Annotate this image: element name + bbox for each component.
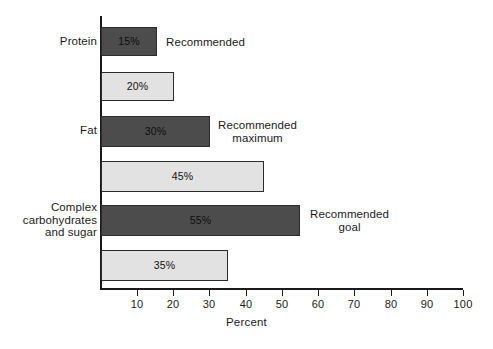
x-tick-20 <box>173 290 174 296</box>
x-axis-title: Percent <box>0 316 493 328</box>
x-tick-label-20: 20 <box>158 298 188 310</box>
x-tick-50 <box>282 290 283 296</box>
annotation-recommended-goal: Recommended goal <box>310 208 389 233</box>
x-tick-label-70: 70 <box>339 298 369 310</box>
x-tick-10 <box>137 290 138 296</box>
x-tick-30 <box>209 290 210 296</box>
x-tick-label-40: 40 <box>231 298 261 310</box>
bar-carbohydrates-current: 35% <box>101 250 228 281</box>
category-label-protein: Protein <box>60 35 97 48</box>
y-axis-line <box>100 16 102 290</box>
bar-fat-current: 45% <box>101 161 264 192</box>
annotation-recommended-maximum: Recommended maximum <box>218 119 297 144</box>
bar-protein-recommended: 15% <box>101 27 157 56</box>
bar-carbohydrates-recommended: 55% <box>101 205 300 236</box>
x-tick-label-30: 30 <box>194 298 224 310</box>
bar-chart: 10 20 30 40 50 60 70 80 90 100 Protein F… <box>0 0 493 349</box>
x-tick-label-90: 90 <box>412 298 442 310</box>
category-label-complex-carbohydrates: Complex carbohydrates and sugar <box>23 201 97 239</box>
x-tick-label-80: 80 <box>376 298 406 310</box>
x-tick-70 <box>354 290 355 296</box>
bar-value-label: 35% <box>154 260 176 271</box>
bar-fat-recommended: 30% <box>101 116 210 147</box>
x-tick-label-10: 10 <box>122 298 152 310</box>
x-tick-label-100: 100 <box>448 298 478 310</box>
annotation-recommended: Recommended <box>166 36 245 49</box>
bar-value-label: 55% <box>190 215 212 226</box>
x-tick-60 <box>318 290 319 296</box>
category-label-fat: Fat <box>80 124 97 137</box>
x-tick-80 <box>391 290 392 296</box>
bar-value-label: 15% <box>118 36 140 47</box>
bar-protein-current: 20% <box>101 72 174 101</box>
x-tick-40 <box>246 290 247 296</box>
x-tick-label-60: 60 <box>303 298 333 310</box>
bar-value-label: 45% <box>172 171 194 182</box>
bar-value-label: 30% <box>145 126 167 137</box>
x-tick-label-50: 50 <box>267 298 297 310</box>
bar-value-label: 20% <box>127 81 149 92</box>
x-tick-100 <box>463 290 464 296</box>
x-tick-90 <box>427 290 428 296</box>
